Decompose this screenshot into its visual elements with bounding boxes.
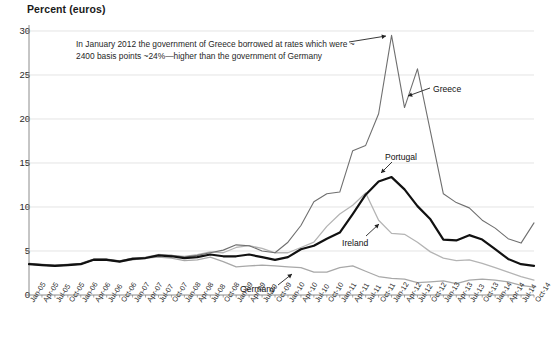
series-label-germany: Germany [240, 284, 275, 294]
x-axis-tick-label: Oct-14 [533, 281, 552, 304]
series-label-ireland: Ireland [342, 238, 368, 248]
annotation-line-2: 2400 basis points ~24%—higher than the g… [76, 50, 322, 62]
series-label-portugal: Portugal [385, 152, 417, 162]
annotation-line-1: In January 2012 the government of Greece… [76, 38, 355, 50]
series-label-greece: Greece [433, 84, 461, 94]
